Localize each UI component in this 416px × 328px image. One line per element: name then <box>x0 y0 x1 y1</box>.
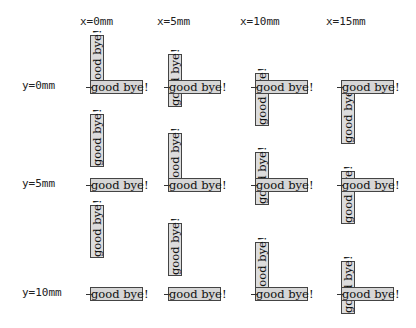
column-label: x=10mm <box>240 16 280 28</box>
anchor-tick <box>337 294 344 295</box>
anchor-tick <box>86 87 93 88</box>
text-box: good bye! <box>168 178 221 192</box>
anchor-tick <box>86 294 93 295</box>
anchor-tick <box>164 87 171 88</box>
rotated-text-box: good bye! <box>90 205 104 258</box>
anchor-tick <box>164 185 171 186</box>
rotated-text-box: good bye! <box>168 223 182 276</box>
column-label: x=5mm <box>157 16 190 28</box>
anchor-tick <box>164 294 171 295</box>
text-box: good bye! <box>90 287 143 301</box>
anchor-tick <box>251 294 258 295</box>
rotated-text-box: good bye! <box>341 91 355 144</box>
text-box: good bye! <box>255 80 308 94</box>
text-box: good bye! <box>341 287 394 301</box>
anchor-tick <box>337 185 344 186</box>
text-box: good bye! <box>341 178 394 192</box>
column-label: x=15mm <box>326 16 366 28</box>
row-label: y=5mm <box>22 178 55 190</box>
text-box: good bye! <box>168 287 221 301</box>
anchor-tick <box>251 87 258 88</box>
row-label: y=0mm <box>22 80 55 92</box>
text-box: good bye! <box>90 178 143 192</box>
anchor-tick <box>251 185 258 186</box>
rotated-text-box: good bye! <box>90 114 104 167</box>
text-box: good bye! <box>255 178 308 192</box>
text-box: good bye! <box>90 80 143 94</box>
anchor-tick <box>86 185 93 186</box>
row-label: y=10mm <box>22 287 62 299</box>
anchor-tick <box>337 87 344 88</box>
text-box: good bye! <box>341 80 394 94</box>
text-box: good bye! <box>168 80 221 94</box>
column-label: x=0mm <box>80 16 113 28</box>
text-box: good bye! <box>255 287 308 301</box>
